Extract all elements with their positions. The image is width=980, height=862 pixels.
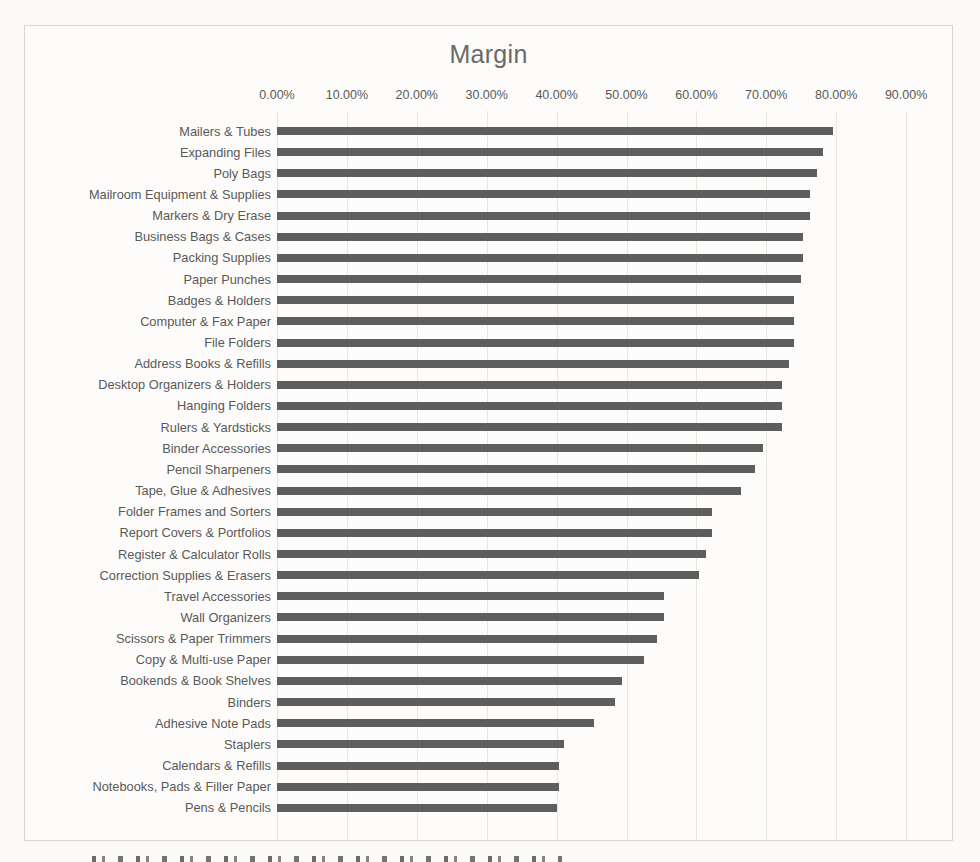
x-tick-label: 80.00%: [800, 88, 872, 102]
category-label: Folder Frames and Sorters: [25, 504, 271, 519]
category-label: Address Books & Refills: [25, 356, 271, 371]
bar: [277, 613, 664, 621]
category-label: Desktop Organizers & Holders: [25, 377, 271, 392]
category-label: Paper Punches: [25, 272, 271, 287]
category-label: Business Bags & Cases: [25, 229, 271, 244]
category-label: Mailroom Equipment & Supplies: [25, 187, 271, 202]
chart-title: Margin: [25, 40, 952, 69]
category-label: Mailers & Tubes: [25, 124, 271, 139]
bar: [277, 233, 803, 241]
gridline-40: [557, 111, 558, 840]
bar: [277, 719, 594, 727]
category-label: Poly Bags: [25, 166, 271, 181]
bar: [277, 212, 810, 220]
category-label: Calendars & Refills: [25, 758, 271, 773]
bar: [277, 402, 782, 410]
bar: [277, 635, 657, 643]
category-label: Pencil Sharpeners: [25, 462, 271, 477]
bar: [277, 529, 712, 537]
category-label: Register & Calculator Rolls: [25, 547, 271, 562]
bar: [277, 508, 712, 516]
x-tick-label: 10.00%: [311, 88, 383, 102]
category-label: Badges & Holders: [25, 293, 271, 308]
x-tick-label: 60.00%: [660, 88, 732, 102]
bar: [277, 423, 782, 431]
category-label: Travel Accessories: [25, 589, 271, 604]
x-tick-label: 90.00%: [870, 88, 942, 102]
bar: [277, 592, 664, 600]
category-label: Copy & Multi-use Paper: [25, 652, 271, 667]
category-label: Expanding Files: [25, 145, 271, 160]
gridline-10: [347, 111, 348, 840]
x-tick-label: 40.00%: [521, 88, 593, 102]
category-label: Adhesive Note Pads: [25, 716, 271, 731]
bar: [277, 296, 794, 304]
bar: [277, 487, 741, 495]
bar: [277, 169, 817, 177]
gridline-60: [696, 111, 697, 840]
bar: [277, 656, 644, 664]
bar: [277, 444, 763, 452]
bar: [277, 381, 782, 389]
category-label: Correction Supplies & Erasers: [25, 568, 271, 583]
x-tick-label: 50.00%: [591, 88, 663, 102]
category-label: Hanging Folders: [25, 398, 271, 413]
category-label: Markers & Dry Erase: [25, 208, 271, 223]
bar: [277, 698, 615, 706]
bar: [277, 804, 557, 812]
x-tick-label: 30.00%: [451, 88, 523, 102]
bar: [277, 317, 794, 325]
bar: [277, 360, 789, 368]
category-label: File Folders: [25, 335, 271, 350]
bar: [277, 339, 794, 347]
margin-bar-chart: Margin 0.00%10.00%20.00%30.00%40.00%50.0…: [24, 25, 953, 841]
category-label: Packing Supplies: [25, 250, 271, 265]
gridline-70: [766, 111, 767, 840]
category-label: Wall Organizers: [25, 610, 271, 625]
bar: [277, 127, 833, 135]
gridline-30: [487, 111, 488, 840]
category-label: Staplers: [25, 737, 271, 752]
category-label: Notebooks, Pads & Filler Paper: [25, 779, 271, 794]
category-label: Scissors & Paper Trimmers: [25, 631, 271, 646]
category-label: Report Covers & Portfolios: [25, 525, 271, 540]
gridline-20: [417, 111, 418, 840]
x-tick-label: 20.00%: [381, 88, 453, 102]
bar: [277, 254, 803, 262]
gridline-0: [277, 111, 278, 840]
bar: [277, 148, 823, 156]
bar: [277, 550, 706, 558]
bar: [277, 465, 755, 473]
bar: [277, 190, 810, 198]
gridline-50: [627, 111, 628, 840]
bar: [277, 677, 622, 685]
category-label: Pens & Pencils: [25, 800, 271, 815]
gridline-90: [906, 111, 907, 840]
category-label: Binder Accessories: [25, 441, 271, 456]
cropped-caption-fragment: [92, 856, 562, 862]
category-label: Tape, Glue & Adhesives: [25, 483, 271, 498]
category-label: Bookends & Book Shelves: [25, 673, 271, 688]
category-label: Rulers & Yardsticks: [25, 420, 271, 435]
bar: [277, 762, 559, 770]
bar: [277, 740, 564, 748]
bar: [277, 275, 801, 283]
category-label: Computer & Fax Paper: [25, 314, 271, 329]
x-tick-label: 0.00%: [241, 88, 313, 102]
x-tick-label: 70.00%: [730, 88, 802, 102]
bar: [277, 783, 559, 791]
gridline-80: [836, 111, 837, 840]
bar: [277, 571, 699, 579]
category-label: Binders: [25, 695, 271, 710]
